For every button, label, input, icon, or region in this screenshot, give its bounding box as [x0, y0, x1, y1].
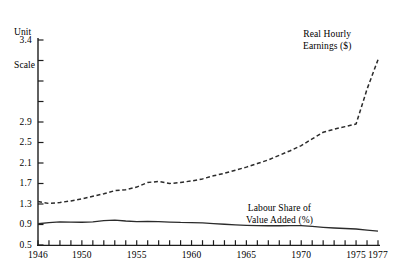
x-axis-tick-label: 1946: [28, 250, 48, 260]
series-line-labour-share: [38, 220, 378, 231]
y-axis-tick-label: 1.7: [2, 178, 32, 188]
series-line-real-hourly-earnings: [38, 60, 378, 204]
x-axis-tick-label: 1965: [236, 250, 256, 260]
annotation-line-2: Earnings ($): [303, 41, 351, 53]
x-axis-tick-label: 1960: [182, 250, 202, 260]
x-axis-tick-label: 1970: [291, 250, 311, 260]
series-annotation-labour-share: Labour Share of Value Added (%): [246, 203, 313, 226]
y-axis-tick-label: 2.9: [2, 117, 32, 127]
x-axis-tick-label: 1977: [368, 250, 388, 260]
series-annotation-real-hourly-earnings: Real Hourly Earnings ($): [303, 29, 351, 52]
y-axis-ticks: [38, 40, 44, 245]
chart-figure: Unit Scale 3.42.92.52.11.71.30.90.5 1946…: [0, 0, 395, 267]
y-axis-tick-label: 0.5: [2, 240, 32, 250]
annotation-line-1: Real Hourly: [303, 29, 351, 41]
y-axis-tick-label: 0.9: [2, 219, 32, 229]
x-axis-tick-label: 1955: [127, 250, 147, 260]
annotation-line-1: Labour Share of: [246, 203, 313, 215]
y-axis-tick-label: 3.4: [2, 35, 32, 45]
x-axis-ticks: [38, 240, 378, 245]
y-axis-tick-label: 2.1: [2, 158, 32, 168]
x-axis-tick-label: 1950: [72, 250, 92, 260]
annotation-line-2: Value Added (%): [246, 215, 313, 227]
x-axis-tick-label: 1975: [346, 250, 366, 260]
y-axis-tick-label: 2.5: [2, 137, 32, 147]
axes: [37, 38, 380, 246]
data-series-group: [38, 60, 378, 231]
y-axis-tick-label: 1.3: [2, 199, 32, 209]
